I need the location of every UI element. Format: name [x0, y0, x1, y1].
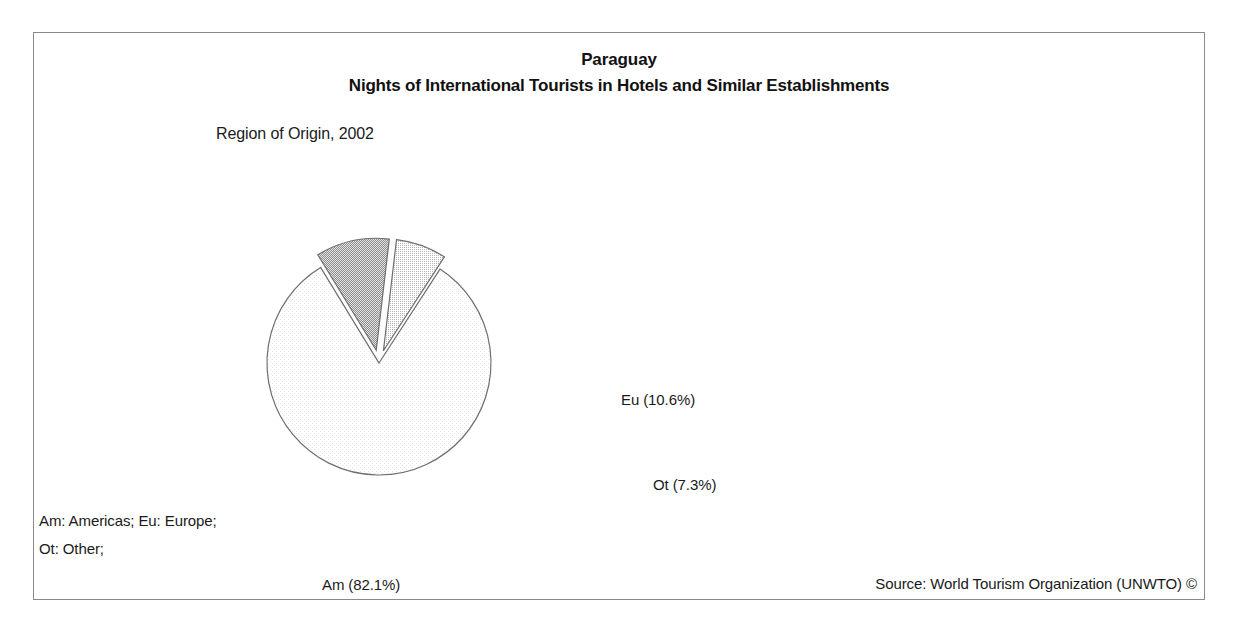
- figure-frame: Paraguay Nights of International Tourist…: [33, 32, 1205, 600]
- title-block: Paraguay Nights of International Tourist…: [34, 47, 1204, 99]
- legend-line-1: Am: Americas; Eu: Europe;: [39, 507, 217, 535]
- page-subtitle: Nights of International Tourists in Hote…: [34, 72, 1204, 99]
- figure-page: Paraguay Nights of International Tourist…: [0, 0, 1236, 639]
- source-note: Source: World Tourism Organization (UNWT…: [875, 575, 1197, 592]
- pie-chart-svg: [184, 183, 744, 523]
- pie-chart: Eu (10.6%) Ot (7.3%) Am (82.1%): [184, 183, 744, 523]
- chart-caption: Region of Origin, 2002: [216, 125, 374, 143]
- pie-label-ot: Ot (7.3%): [653, 476, 716, 493]
- pie-label-eu: Eu (10.6%): [621, 391, 695, 408]
- pie-label-am: Am (82.1%): [322, 576, 400, 593]
- page-title: Paraguay: [34, 47, 1204, 72]
- legend: Am: Americas; Eu: Europe; Ot: Other;: [39, 507, 217, 563]
- legend-line-2: Ot: Other;: [39, 535, 217, 563]
